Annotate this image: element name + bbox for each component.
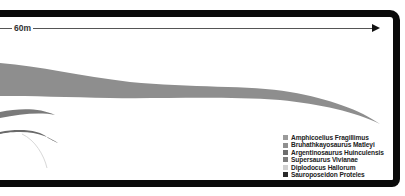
- legend-swatch: [283, 172, 288, 177]
- legend-label: Amphicoelius Fragillimus: [291, 134, 369, 141]
- legend-swatch: [283, 157, 288, 162]
- legend-label: Argentinosaurus Huinculensis: [291, 149, 384, 156]
- legend-label: Supersaurus Vivianae: [291, 156, 358, 163]
- legend-item: Argentinosaurus Huinculensis: [283, 149, 384, 156]
- tail-silhouette-large: [0, 63, 380, 124]
- legend-label: Sauroposeidon Proteles: [291, 171, 365, 178]
- legend-label: Diplodocus Hallorum: [291, 164, 355, 171]
- legend-item: Amphicoelius Fragillimus: [283, 134, 384, 141]
- tail-silhouette-medium: [0, 109, 55, 118]
- tail-silhouette-faint: [22, 134, 47, 168]
- legend-swatch: [283, 150, 288, 155]
- legend-item: Bruhathkayosaurus Matleyi: [283, 141, 384, 148]
- tail-silhouette-thin: [0, 130, 58, 143]
- legend-item: Sauroposeidon Proteles: [283, 171, 384, 178]
- legend-label: Bruhathkayosaurus Matleyi: [291, 141, 375, 148]
- legend-item: Diplodocus Hallorum: [283, 164, 384, 171]
- scale-bar: 60m: [0, 22, 380, 34]
- legend-swatch: [283, 143, 288, 148]
- arrow-right-icon: [372, 24, 380, 32]
- scale-label: 60m: [12, 22, 33, 34]
- legend-swatch: [283, 165, 288, 170]
- legend-item: Supersaurus Vivianae: [283, 156, 384, 163]
- scale-line: [0, 28, 372, 29]
- legend-swatch: [283, 135, 288, 140]
- legend: Amphicoelius Fragillimus Bruhathkayosaur…: [283, 134, 384, 178]
